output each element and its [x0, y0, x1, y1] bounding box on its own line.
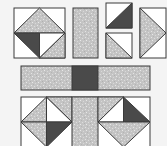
assembled-bottom-row: [21, 97, 150, 146]
hst-print: [106, 33, 132, 58]
center-strip: [72, 97, 98, 146]
vertical-sashing-strip: [73, 8, 98, 58]
square-in-square-unit-top-left: [14, 8, 65, 58]
hst-dark: [106, 3, 132, 28]
quilt-diagram: [0, 0, 167, 146]
horizontal-sashing-row: [21, 66, 150, 90]
flying-geese-right: [140, 8, 166, 58]
